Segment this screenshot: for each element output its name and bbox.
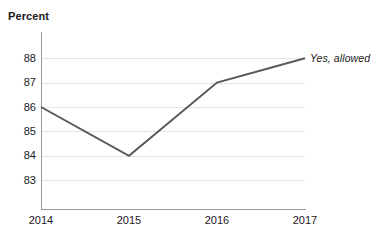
series-line-yes-allowed	[41, 58, 305, 156]
x-tick-label: 2014	[11, 214, 71, 226]
x-tick-label: 2015	[99, 214, 159, 226]
series-line-layer	[0, 0, 383, 243]
line-chart: Percent 888786858483 Yes, allowed 201420…	[0, 0, 383, 243]
x-tick-label: 2017	[275, 214, 335, 226]
series-label-yes-allowed: Yes, allowed	[310, 52, 370, 64]
x-tick-label: 2016	[187, 214, 247, 226]
